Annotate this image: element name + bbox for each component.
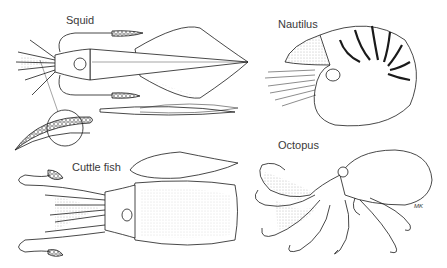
cuttlefish-drawing: [19, 152, 239, 256]
label-cuttlefish: Cuttle fish: [72, 161, 121, 173]
squid-drawing: [15, 27, 248, 150]
octopus-drawing: [255, 150, 432, 254]
label-octopus: Octopus: [278, 139, 319, 151]
label-nautilus: Nautilus: [278, 18, 318, 30]
artist-signature: MK: [414, 203, 423, 209]
label-squid: Squid: [66, 14, 94, 26]
nautilus-drawing: [265, 26, 416, 126]
cephalopod-illustration: Squid Nautilus Cuttle fish Octopus MK: [0, 0, 447, 268]
illustration-drawing: [0, 0, 447, 268]
